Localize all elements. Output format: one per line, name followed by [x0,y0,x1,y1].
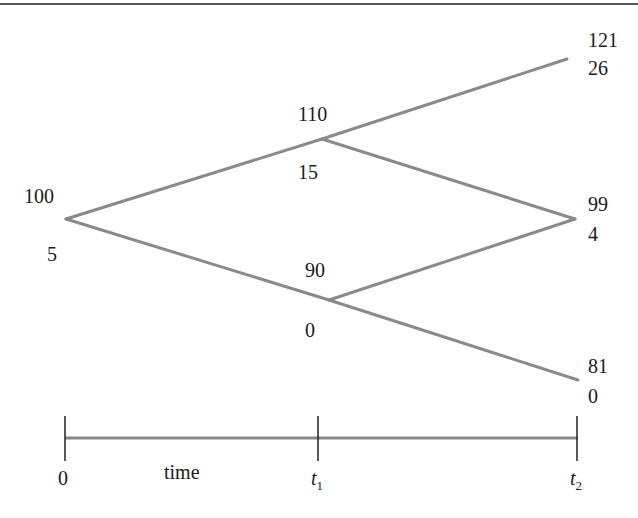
tick-label-0: 0 [58,468,68,488]
edge-down-updown [329,219,575,300]
downdown-price: 81 [588,356,608,376]
edge-up-updown [322,139,575,219]
edge-root-up [66,139,322,219]
edge-root-down [66,219,329,300]
updown-value: 4 [588,224,598,244]
down-price: 90 [305,260,325,280]
root-price: 100 [24,186,54,206]
up-value: 15 [298,162,318,182]
tick-label-t2: t2 [570,468,582,496]
downdown-value: 0 [588,386,598,406]
upup-value: 26 [588,58,608,78]
up-price: 110 [298,104,327,124]
edge-up-upup [322,59,567,139]
upup-price: 121 [588,30,618,50]
root-value: 5 [47,244,57,264]
down-value: 0 [305,320,315,340]
edge-down-downdown [329,300,578,380]
updown-price: 99 [588,194,608,214]
tick-label-t1: t1 [311,468,323,496]
time-label: time [164,462,200,482]
time-axis [65,416,578,461]
